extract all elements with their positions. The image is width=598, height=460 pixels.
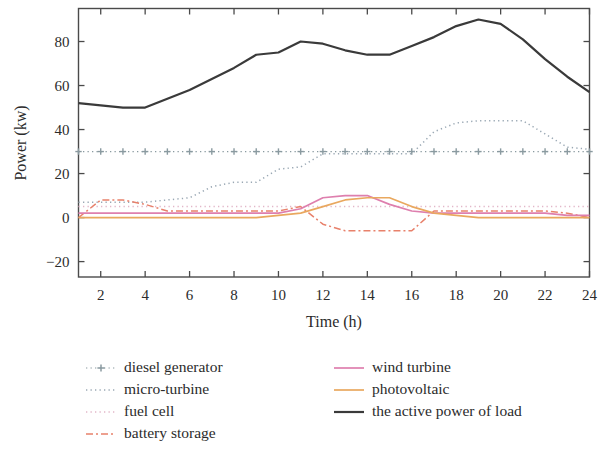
power-time-line-chart: 806040200−20 24681012141618202224 Power … xyxy=(0,0,598,460)
y-tick-label: −20 xyxy=(46,254,69,270)
x-tick-label: 12 xyxy=(315,287,330,303)
y-tick-label: 80 xyxy=(55,34,70,50)
legend-item-label: fuel cell xyxy=(124,402,174,419)
x-tick-label: 22 xyxy=(538,287,553,303)
y-tick-label: 60 xyxy=(55,78,70,94)
legend-item-label: diesel generator xyxy=(124,358,223,375)
x-tick-label: 14 xyxy=(360,287,376,303)
x-tick-label: 10 xyxy=(271,287,286,303)
x-tick-label: 18 xyxy=(449,287,464,303)
y-tick-label: 40 xyxy=(55,122,70,138)
legend-item-label: wind turbine xyxy=(372,358,451,375)
chart-figure: 806040200−20 24681012141618202224 Power … xyxy=(0,0,598,460)
y-axis-title: Power (kw) xyxy=(12,105,30,180)
x-tick-label: 8 xyxy=(230,287,238,303)
legend-item-label: photovoltaic xyxy=(372,380,450,397)
legend-item-label: the active power of load xyxy=(372,402,522,419)
x-tick-label: 6 xyxy=(186,287,194,303)
x-axis-title: Time (h) xyxy=(306,313,362,331)
x-tick-label: 16 xyxy=(404,287,420,303)
y-tick-label: 0 xyxy=(62,210,70,226)
legend-item-label: battery storage xyxy=(124,424,216,441)
x-tick-label: 20 xyxy=(493,287,508,303)
y-tick-label: 20 xyxy=(55,166,70,182)
chart-background xyxy=(0,0,598,460)
x-tick-label: 2 xyxy=(97,287,105,303)
legend-item-label: micro-turbine xyxy=(124,380,209,397)
x-tick-label: 4 xyxy=(141,287,149,303)
x-tick-label: 24 xyxy=(582,287,598,303)
